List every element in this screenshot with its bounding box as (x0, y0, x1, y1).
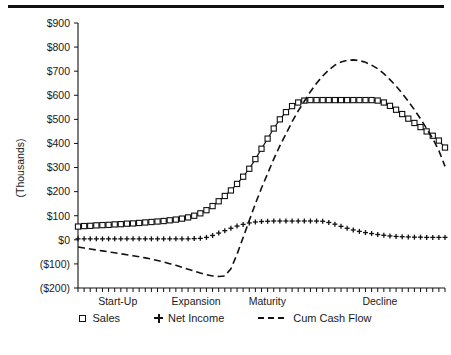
y-tick-label: $700 (47, 65, 71, 77)
data-point-marker (418, 124, 423, 129)
y-tick-label: $300 (47, 161, 71, 173)
data-point-marker (283, 110, 288, 115)
y-axis-ticks: $900$800$700$600$500$400$300$200$100$0($… (40, 17, 78, 294)
y-axis-title-label: (Thousands) (14, 139, 26, 198)
chart-figure: (Thousands) $900$800$700$600$500$400$300… (0, 0, 451, 355)
legend-item-cum-cash-flow: Cum Cash Flow (258, 312, 371, 324)
data-point-marker (222, 193, 227, 198)
data-point-marker (375, 98, 380, 103)
data-point-marker (228, 188, 233, 193)
x-axis-stage-labels: Start-UpExpansionMaturityDecline (98, 295, 397, 307)
data-point-marker (363, 97, 368, 102)
data-point-marker (124, 221, 129, 226)
data-point-marker (82, 223, 87, 228)
data-point-marker (94, 223, 99, 228)
x-axis-stage-label: Expansion (172, 295, 221, 307)
y-axis-title: (Thousands) (14, 139, 26, 198)
y-tick-label: $400 (47, 137, 71, 149)
chart-plot-area: (Thousands) $900$800$700$600$500$400$300… (0, 8, 451, 308)
data-point-marker (75, 224, 80, 229)
data-point-marker (106, 222, 111, 227)
data-point-marker (381, 100, 386, 105)
dashed-line-icon (258, 317, 286, 319)
y-tick-label: $800 (47, 41, 71, 53)
data-point-marker (155, 219, 160, 224)
data-point-marker (241, 174, 246, 179)
y-tick-label: $500 (47, 113, 71, 125)
data-point-marker (369, 97, 374, 102)
data-point-marker (412, 120, 417, 125)
data-point-marker (436, 138, 441, 143)
data-point-marker (296, 100, 301, 105)
data-point-marker (357, 97, 362, 102)
x-axis-ticks (78, 288, 445, 292)
data-point-marker (118, 222, 123, 227)
y-tick-label: ($100) (40, 258, 70, 270)
data-point-marker (234, 181, 239, 186)
legend-label-sales: Sales (92, 312, 120, 324)
data-point-marker (406, 116, 411, 121)
data-point-marker (130, 221, 135, 226)
x-axis-stage-label: Decline (362, 295, 397, 307)
data-point-marker (351, 97, 356, 102)
legend-item-sales: Sales (79, 312, 120, 324)
series-line-path (78, 60, 445, 277)
y-tick-label: $100 (47, 210, 71, 222)
series-line-path (78, 100, 445, 226)
data-point-marker (179, 216, 184, 221)
data-point-marker (143, 220, 148, 225)
data-point-marker (198, 211, 203, 216)
data-point-marker (167, 218, 172, 223)
chart-legend: Sales Net Income Cum Cash Flow (0, 312, 451, 352)
y-tick-label: $600 (47, 89, 71, 101)
data-point-marker (137, 220, 142, 225)
data-point-marker (247, 166, 252, 171)
plus-icon (154, 314, 163, 323)
y-tick-label: $0 (58, 234, 70, 246)
data-point-marker (88, 223, 93, 228)
x-axis-stage-label: Start-Up (98, 295, 137, 307)
data-point-marker (192, 213, 197, 218)
series-layer (75, 60, 447, 277)
data-point-marker (308, 97, 313, 102)
data-point-marker (210, 203, 215, 208)
data-point-marker (345, 97, 350, 102)
data-point-marker (271, 126, 276, 131)
data-point-marker (393, 107, 398, 112)
data-point-marker (338, 97, 343, 102)
data-point-marker (289, 104, 294, 109)
data-point-marker (100, 223, 105, 228)
data-point-marker (442, 145, 447, 150)
data-point-marker (277, 117, 282, 122)
data-point-marker (186, 215, 191, 220)
series-cum-cash-flow (78, 60, 445, 277)
data-point-marker (161, 218, 166, 223)
data-point-marker (173, 217, 178, 222)
data-point-marker (332, 97, 337, 102)
y-tick-label: $900 (47, 17, 71, 29)
data-point-marker (112, 222, 117, 227)
data-point-marker (326, 97, 331, 102)
data-point-marker (265, 136, 270, 141)
data-point-marker (400, 111, 405, 116)
data-point-marker (314, 97, 319, 102)
legend-item-net-income: Net Income (154, 312, 224, 324)
data-point-marker (204, 208, 209, 213)
y-tick-label: $200 (47, 185, 71, 197)
data-point-marker (216, 199, 221, 204)
open-square-icon (79, 315, 86, 322)
legend-row: Sales Net Income Cum Cash Flow (0, 312, 451, 324)
legend-label-cum-cash-flow: Cum Cash Flow (293, 312, 371, 324)
data-point-marker (320, 97, 325, 102)
x-axis-stage-label: Maturity (249, 295, 287, 307)
data-point-marker (253, 157, 258, 162)
series-sales (75, 97, 447, 229)
y-tick-label: ($200) (40, 282, 70, 294)
data-point-marker (387, 103, 392, 108)
chart-svg: (Thousands) $900$800$700$600$500$400$300… (0, 8, 451, 308)
data-point-marker (259, 146, 264, 151)
data-point-marker (149, 219, 154, 224)
legend-label-net-income: Net Income (168, 312, 224, 324)
